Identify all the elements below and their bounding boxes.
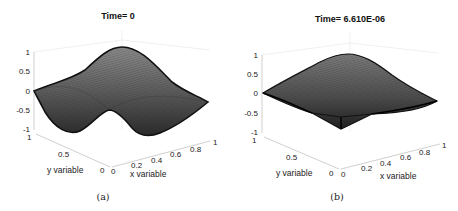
svg-text:0.6: 0.6	[170, 150, 182, 159]
svg-text:0.8: 0.8	[190, 145, 202, 154]
panel-b-y-label: y variable	[276, 168, 313, 178]
svg-text:0: 0	[100, 166, 105, 175]
svg-text:-0.5: -0.5	[244, 109, 258, 118]
svg-text:0: 0	[111, 167, 116, 176]
svg-text:0: 0	[341, 170, 346, 179]
panel-b-title: Time= 6.610E-06	[315, 14, 385, 24]
panel-b-x-label: x variable	[380, 171, 417, 181]
panel-a-y-axis	[36, 134, 110, 167]
svg-text:0.8: 0.8	[419, 148, 431, 157]
panel-a: Time= 0 1 0.5 0 -0.5 -1 1 0.5 0	[16, 11, 218, 202]
svg-text:1: 1	[254, 51, 259, 60]
svg-text:1: 1	[213, 138, 218, 147]
svg-text:0.6: 0.6	[400, 153, 412, 162]
svg-text:0.4: 0.4	[380, 159, 392, 168]
svg-text:1: 1	[26, 48, 31, 57]
svg-text:0: 0	[254, 89, 259, 98]
svg-text:1: 1	[27, 133, 32, 142]
panel-b-y-axis	[264, 137, 339, 169]
panel-b-z-ticks: 1 0.5 0 -0.5 -1	[244, 51, 258, 137]
panel-a-title: Time= 0	[101, 11, 135, 21]
panel-a-x-label: x variable	[130, 169, 167, 179]
panel-a-caption: (a)	[96, 191, 109, 202]
panel-a-z-ticks: 1 0.5 0 -0.5 -1	[16, 48, 30, 134]
svg-text:0.4: 0.4	[151, 156, 163, 165]
panel-b: Time= 6.610E-06 1 0.5 0 -0.5 -1 1 0.5 0	[244, 14, 447, 202]
svg-text:1: 1	[252, 136, 257, 145]
svg-text:-0.5: -0.5	[16, 106, 30, 115]
figure: Time= 0 1 0.5 0 -0.5 -1 1 0.5 0	[0, 0, 458, 211]
svg-text:1: 1	[442, 141, 447, 150]
svg-text:0.2: 0.2	[361, 164, 373, 173]
svg-text:0: 0	[26, 87, 31, 96]
panel-b-caption: (b)	[330, 191, 344, 202]
svg-text:0.5: 0.5	[247, 70, 259, 79]
panel-b-mesh	[263, 54, 437, 129]
svg-text:0.5: 0.5	[19, 67, 31, 76]
svg-text:0.5: 0.5	[58, 150, 70, 159]
svg-text:0.5: 0.5	[286, 153, 298, 162]
panel-a-y-label: y variable	[47, 165, 84, 175]
svg-text:0: 0	[329, 169, 334, 178]
